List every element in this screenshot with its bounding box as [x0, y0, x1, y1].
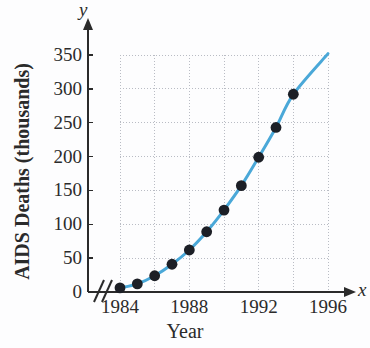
data-point: [132, 278, 143, 289]
y-tick-label: 0: [36, 281, 82, 303]
x-axis-variable-label: x: [358, 279, 366, 301]
data-point: [253, 152, 264, 163]
data-point: [149, 270, 160, 281]
y-tick-label: 50: [36, 247, 82, 269]
y-tick-label: 250: [36, 112, 82, 134]
x-tick-label: 1992: [229, 296, 289, 318]
y-axis-variable-label: y: [79, 0, 87, 21]
y-tick-label: 300: [36, 78, 82, 100]
data-point: [184, 245, 195, 256]
aids-deaths-chart-figure: AIDS Deaths (thousands) Year y x 0501001…: [0, 0, 370, 348]
y-tick-label: 100: [36, 213, 82, 235]
y-axis-title: AIDS Deaths (thousands): [11, 47, 34, 297]
y-tick-label: 200: [36, 146, 82, 168]
x-tick-label: 1996: [298, 296, 358, 318]
data-point: [167, 259, 178, 270]
data-point: [236, 180, 247, 191]
x-axis-title: Year: [0, 320, 370, 343]
data-point: [288, 89, 299, 100]
x-tick-label: 1988: [159, 296, 219, 318]
axis-lines: [83, 18, 356, 297]
data-point: [115, 283, 126, 294]
y-tick-label: 150: [36, 179, 82, 201]
x-tick-label: 1984: [90, 296, 150, 318]
y-tick-label: 350: [36, 44, 82, 66]
data-point: [271, 122, 282, 133]
data-point: [201, 226, 212, 237]
data-point-markers: [115, 89, 299, 293]
data-point: [219, 205, 230, 216]
